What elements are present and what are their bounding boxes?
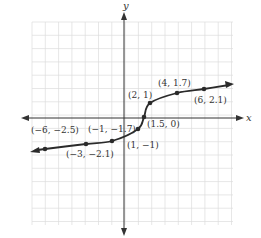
data-point (142, 115, 147, 120)
data-point (175, 91, 180, 96)
x-axis-right-arrow-icon (236, 115, 244, 121)
point-label: (1.5, 0) (147, 119, 180, 129)
point-label: (2, 1) (128, 90, 152, 100)
point-label: (−6, −2.5) (31, 125, 79, 135)
y-axis-down-arrow-icon (121, 228, 127, 236)
x-axis-left-arrow-icon (21, 115, 29, 121)
y-axis-up-arrow-icon (121, 12, 127, 20)
graph: x y (−6, −2.5)(−3, −2.1)(−1, −1.7)(1, −1… (0, 0, 261, 238)
data-point (84, 142, 89, 147)
point-label: (−1, −1.7) (88, 124, 136, 134)
data-point (110, 139, 115, 144)
y-axis-label: y (122, 0, 129, 11)
data-point (202, 87, 207, 92)
point-label: (1, −1) (127, 140, 159, 150)
curve-right-arrow-icon (225, 81, 234, 88)
x-axis-label: x (246, 112, 252, 123)
curve-left-arrow-icon (30, 147, 40, 153)
point-label: (−3, −2.1) (66, 149, 114, 159)
x-axis: x (21, 112, 252, 123)
point-label: (4, 1.7) (158, 78, 191, 88)
data-point (148, 101, 153, 106)
point-label: (6, 2.1) (194, 95, 227, 105)
data-point (43, 147, 48, 152)
data-point (136, 127, 141, 132)
